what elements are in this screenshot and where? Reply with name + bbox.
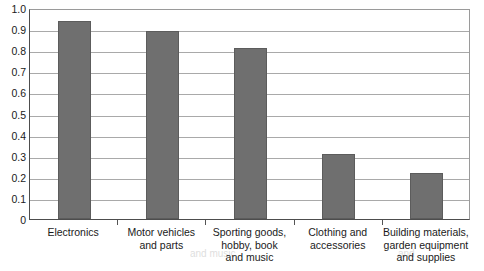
bar	[58, 21, 91, 219]
x-axis-label-line: Electronics	[29, 226, 117, 239]
x-axis-category-label: Building materials,garden equipmentand s…	[382, 226, 470, 264]
y-axis-tick-label: 0.4	[0, 130, 26, 141]
bar	[146, 31, 179, 219]
y-axis-tick-label: 0.7	[0, 67, 26, 78]
x-axis-labels: ElectronicsMotor vehiclesand partsSporti…	[29, 226, 470, 271]
y-axis-tick-label: 0.1	[0, 194, 26, 205]
x-axis-label-line: and supplies	[382, 251, 470, 264]
x-axis-label-line: Clothing and	[294, 226, 382, 239]
x-axis-tick	[117, 220, 118, 225]
bar	[234, 48, 267, 219]
x-axis-label-line: Sporting goods,	[205, 226, 293, 239]
x-axis-category-label: Motor vehiclesand parts	[117, 226, 205, 251]
x-axis-category-label: Sporting goods,hobby, bookand music	[205, 226, 293, 264]
x-axis-category-label: Clothing andaccessories	[294, 226, 382, 251]
bar	[322, 154, 355, 219]
x-axis-label-line: and music	[205, 251, 293, 264]
bar	[410, 173, 443, 219]
y-axis-tick-label: 0.2	[0, 173, 26, 184]
y-axis-tick-label: 0.9	[0, 25, 26, 36]
gridline	[30, 31, 469, 32]
y-axis-tick-label: 0.8	[0, 46, 26, 57]
plot-area	[29, 9, 470, 220]
bar-chart: 1.00.90.80.70.60.50.40.30.20.10 Electron…	[0, 0, 484, 271]
x-axis-tick	[294, 220, 295, 225]
y-axis-tick-label: 0	[0, 215, 26, 226]
y-axis-tick-label: 0.5	[0, 109, 26, 120]
x-axis-label-line: hobby, book	[205, 239, 293, 252]
x-axis-label-line: Building materials,	[382, 226, 470, 239]
x-axis-label-line: accessories	[294, 239, 382, 252]
x-axis-tick	[382, 220, 383, 225]
x-axis-category-label: Electronics	[29, 226, 117, 239]
x-axis-label-line: Motor vehicles	[117, 226, 205, 239]
x-axis-label-line: garden equipment	[382, 239, 470, 252]
y-axis-tick-label: 0.3	[0, 151, 26, 162]
x-axis-tick	[205, 220, 206, 225]
y-axis-tick-label: 1.0	[0, 4, 26, 15]
y-axis-tick-label: 0.6	[0, 88, 26, 99]
x-axis-label-line: and parts	[117, 239, 205, 252]
y-axis: 1.00.90.80.70.60.50.40.30.20.10	[0, 9, 26, 220]
